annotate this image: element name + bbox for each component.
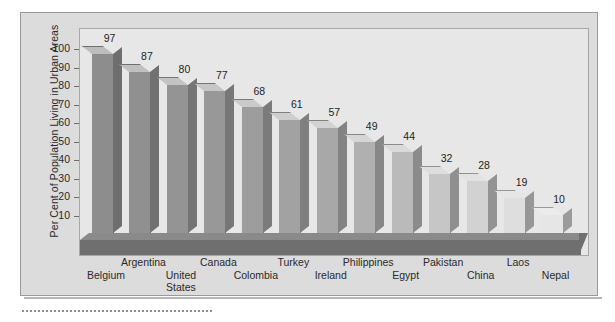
dotted-rule-dot bbox=[206, 310, 208, 312]
bar-front-face bbox=[242, 107, 264, 233]
x-axis-label: Nepal bbox=[516, 270, 596, 282]
dotted-rule-dot bbox=[210, 310, 212, 312]
y-axis-tick-label: 10 bbox=[30, 209, 70, 221]
x-axis-label: United States bbox=[141, 270, 221, 293]
bar-top-face bbox=[531, 207, 562, 215]
y-axis-tick-label: 70 bbox=[30, 98, 70, 110]
dotted-rule-dot bbox=[186, 310, 188, 312]
bar-column: 61 bbox=[279, 113, 300, 233]
bar-side-face bbox=[150, 65, 159, 233]
dotted-rule-dot bbox=[54, 310, 56, 312]
bar-value-label: 19 bbox=[511, 176, 532, 188]
bar-top-face bbox=[381, 144, 412, 152]
bar-top-face bbox=[157, 77, 188, 85]
bar-front-face bbox=[392, 152, 414, 233]
dotted-rule-dot bbox=[98, 310, 100, 312]
dotted-rule-dot bbox=[154, 310, 156, 312]
x-axis-label: Ireland bbox=[291, 270, 371, 282]
dotted-rule-dot bbox=[118, 310, 120, 312]
bar-front-face bbox=[429, 174, 451, 233]
bar-value-label: 68 bbox=[249, 85, 270, 97]
dotted-rule-dot bbox=[110, 310, 112, 312]
bar-side-face bbox=[450, 167, 459, 233]
dotted-rule-dot bbox=[26, 310, 28, 312]
dotted-rule-dot bbox=[190, 310, 192, 312]
x-axis-label: Colombia bbox=[216, 270, 296, 282]
dotted-rule-dot bbox=[138, 310, 140, 312]
y-axis-tick-label: 20 bbox=[30, 190, 70, 202]
dotted-rule-dot bbox=[38, 310, 40, 312]
bar-value-label: 32 bbox=[436, 152, 457, 164]
dotted-rule-dot bbox=[70, 310, 72, 312]
bar-side-face bbox=[375, 135, 384, 233]
y-axis-tick-label: 100 bbox=[30, 42, 70, 54]
dotted-rule-dot bbox=[42, 310, 44, 312]
bar-side-face bbox=[225, 84, 234, 233]
y-axis-tick-label: 80 bbox=[30, 79, 70, 91]
bar-front-face bbox=[129, 72, 151, 233]
bar-front-face bbox=[279, 120, 301, 233]
dotted-rule-dot bbox=[142, 310, 144, 312]
bar-value-label: 87 bbox=[136, 50, 157, 62]
bar-value-label: 80 bbox=[174, 63, 195, 75]
x-axis-label: Philippines bbox=[328, 257, 408, 269]
dotted-rule-dot bbox=[66, 310, 68, 312]
bar-column: 19 bbox=[504, 191, 525, 233]
dotted-rule-dot bbox=[150, 310, 152, 312]
bar-top-face bbox=[194, 83, 225, 91]
x-axis-label: Egypt bbox=[366, 270, 446, 282]
bar-top-face bbox=[344, 134, 375, 142]
x-axis-label: Pakistan bbox=[403, 257, 483, 269]
bar-value-label: 77 bbox=[211, 69, 232, 81]
dotted-rule-decoration bbox=[22, 310, 213, 313]
x-axis-label: Belgium bbox=[66, 270, 146, 282]
bar-column: 28 bbox=[467, 174, 488, 233]
dotted-rule-dot bbox=[62, 310, 64, 312]
chart-panel: Per Cent of Population Living in Urban A… bbox=[20, 12, 598, 296]
plot-area: 97878077686157494432281910 bbox=[79, 28, 589, 256]
bar-side-face bbox=[525, 191, 534, 233]
bar-front-face bbox=[317, 128, 339, 233]
bar-column: 10 bbox=[542, 208, 563, 233]
bar-column: 44 bbox=[392, 145, 413, 233]
bar-column: 57 bbox=[317, 121, 338, 233]
bar-side-face bbox=[300, 113, 309, 233]
dotted-rule-dot bbox=[74, 310, 76, 312]
x-axis-label: Canada bbox=[178, 257, 258, 269]
bar-value-label: 57 bbox=[324, 106, 345, 118]
bar-value-label: 44 bbox=[399, 130, 420, 142]
dotted-rule-dot bbox=[134, 310, 136, 312]
bar-side-face bbox=[488, 174, 497, 233]
bar-value-label: 97 bbox=[99, 32, 120, 44]
bar-side-face bbox=[263, 100, 272, 233]
dotted-rule-dot bbox=[174, 310, 176, 312]
bar-column: 97 bbox=[92, 47, 113, 233]
y-axis-tick-label: 30 bbox=[30, 172, 70, 184]
y-axis-tick-label: 40 bbox=[30, 153, 70, 165]
bar-column: 77 bbox=[204, 84, 225, 233]
dotted-rule-dot bbox=[46, 310, 48, 312]
x-axis-label: Turkey bbox=[253, 257, 333, 269]
bar-front-face bbox=[542, 215, 564, 233]
bar-top-face bbox=[269, 112, 300, 120]
dotted-rule-dot bbox=[182, 310, 184, 312]
bar-front-face bbox=[467, 181, 489, 233]
dotted-rule-dot bbox=[162, 310, 164, 312]
bar-value-label: 28 bbox=[474, 159, 495, 171]
dotted-rule-dot bbox=[90, 310, 92, 312]
bar-front-face bbox=[167, 85, 189, 233]
dotted-rule-dot bbox=[50, 310, 52, 312]
bar-side-face bbox=[413, 145, 422, 233]
bar-side-face bbox=[188, 78, 197, 233]
dotted-rule-dot bbox=[30, 310, 32, 312]
bar-front-face bbox=[204, 91, 226, 233]
dotted-rule-dot bbox=[146, 310, 148, 312]
y-axis-tick-label: 60 bbox=[30, 116, 70, 128]
dotted-rule-dot bbox=[170, 310, 172, 312]
bar-front-face bbox=[354, 142, 376, 233]
bar-column: 87 bbox=[129, 65, 150, 233]
bar-value-label: 61 bbox=[286, 98, 307, 110]
bar-front-face bbox=[504, 198, 526, 233]
dotted-rule-dot bbox=[194, 310, 196, 312]
dotted-rule-dot bbox=[106, 310, 108, 312]
